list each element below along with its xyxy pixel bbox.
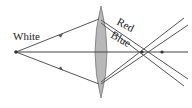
blue-ray-lower [101, 18, 184, 82]
red-focus-point [160, 50, 163, 53]
source-label: White [13, 30, 40, 42]
optics-diagram: White Red Blue [0, 0, 192, 108]
source-point [14, 50, 18, 54]
blue-focus-point [140, 50, 143, 53]
arrow-icon [58, 67, 63, 71]
incoming-ray-lower [16, 52, 99, 84]
